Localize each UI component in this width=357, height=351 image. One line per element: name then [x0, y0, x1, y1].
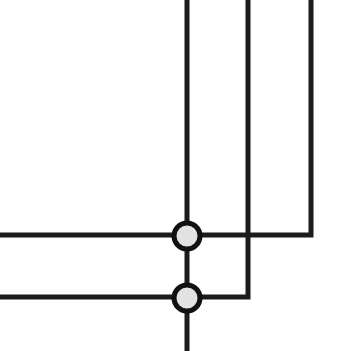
wire-diagram [0, 0, 357, 351]
junction-bottom-node-icon [174, 285, 200, 311]
wire-vertical-middle-to-bottom-row [0, 0, 248, 297]
wire-vertical-right-to-top-row [0, 0, 311, 235]
junction-top-node-icon [174, 223, 200, 249]
